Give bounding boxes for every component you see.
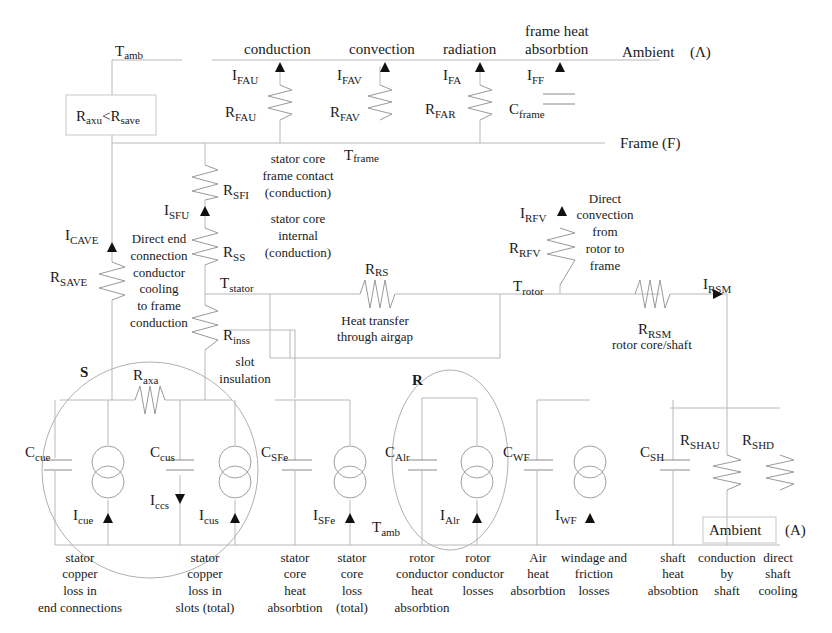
label-i-fau: IFAU (232, 67, 258, 86)
box-raxu-rsave: Raxu<Rsave (76, 108, 140, 126)
caption-air-heat: Air heat absorbtion (511, 550, 566, 598)
svg-text:copper: copper (187, 566, 223, 581)
resistor-rsfi (192, 165, 218, 200)
current-source-icue (92, 446, 124, 498)
thermal-circuit-diagram: conduction convection radiation frame he… (0, 0, 832, 633)
label-i-rsm: IRSM (703, 276, 731, 295)
label-r-rfv: RRFV (509, 240, 540, 259)
caption-windage-friction: windage and friction losses (561, 550, 628, 598)
label-c-cue: Ccue (25, 444, 50, 463)
arrow-down-iccs-icon (175, 494, 185, 504)
label-r-far: RFAR (425, 101, 456, 120)
resistor-rfau (268, 85, 292, 120)
label-r-shau: RSHAU (680, 432, 720, 451)
ambient-bottom-tag: (A) (785, 522, 806, 539)
arrow-up-isfu-icon (200, 206, 210, 216)
arrow-up-irfv-icon (557, 206, 567, 216)
caption-rotor-conductor-heat: rotor conductor heat absorbtion (395, 550, 450, 615)
resistor-raxa (135, 386, 165, 414)
ambient-top-tag: (Λ) (690, 44, 711, 61)
stator-group-label: S (80, 364, 88, 380)
label-r-rs: RRS (365, 261, 388, 278)
svg-text:slots (total): slots (total) (176, 600, 235, 615)
label-c-sfe: CSFe (261, 444, 288, 463)
label-i-sfu: ISFU (164, 202, 189, 221)
annotation-rotor-frame: Direct convection from rotor to frame (576, 191, 634, 273)
svg-text:from: from (592, 224, 617, 239)
label-i-cave: ICAVE (65, 227, 99, 246)
arrow-up-icus-icon (230, 513, 240, 523)
svg-text:windage and: windage and (561, 550, 628, 565)
node-t-amb-bottom: Tamb (372, 519, 401, 538)
svg-text:conduction: conduction (698, 550, 756, 565)
svg-text:direct: direct (763, 550, 793, 565)
caption-shaft-heat: shaft heat absobtion (648, 550, 699, 598)
label-c-alr: CAlr (385, 444, 410, 463)
svg-text:rotor to: rotor to (586, 241, 625, 256)
annotation-airgap: Heat transfer through airgap (337, 313, 413, 344)
svg-text:shaft: shaft (765, 566, 791, 581)
resistor-rss (192, 228, 218, 265)
label-i-cue: Icue (73, 507, 93, 526)
svg-text:absobtion: absobtion (648, 583, 699, 598)
svg-text:cooling: cooling (140, 281, 179, 296)
arrow-up-icue-icon (103, 513, 113, 523)
resistor-rshd (766, 455, 794, 490)
label-r-fav: RFAV (330, 104, 360, 123)
resistor-rshau (713, 455, 741, 490)
resistor-rfar (468, 85, 492, 120)
svg-text:Air: Air (529, 550, 547, 565)
arrow-up-ifa-icon (475, 62, 485, 72)
arrow-up-icave-icon (107, 242, 117, 252)
svg-text:heat: heat (662, 566, 684, 581)
svg-text:(total): (total) (336, 600, 368, 615)
svg-text:absorbtion: absorbtion (395, 600, 450, 615)
svg-text:loss in: loss in (63, 583, 97, 598)
svg-text:(conduction): (conduction) (265, 245, 331, 260)
caption-conduction-shaft: conduction by shaft (698, 550, 756, 598)
resistor-rsave (99, 262, 125, 300)
caption-direct-shaft-cooling: direct shaft cooling (759, 550, 798, 598)
svg-text:stator core: stator core (271, 211, 326, 226)
header-frame-heat-2: absorbtion (525, 41, 589, 57)
svg-text:by: by (721, 566, 735, 581)
caption-stator-copper-slots: stator copper loss in slots (total) (176, 550, 235, 615)
svg-text:rotor: rotor (465, 550, 491, 565)
svg-text:shaft: shaft (660, 550, 686, 565)
label-i-alr: IAlr (440, 507, 460, 526)
frame-label: Frame (F) (620, 135, 680, 152)
svg-text:to frame: to frame (137, 298, 181, 313)
annotation-rotor-shaft: rotor core/shaft (612, 337, 692, 352)
label-r-shd: RSHD (742, 432, 774, 451)
header-radiation: radiation (443, 41, 497, 57)
caption-rotor-conductor-losses: rotor conductor losses (452, 550, 505, 598)
svg-text:through airgap: through airgap (337, 329, 413, 344)
svg-text:cooling: cooling (759, 583, 798, 598)
arrow-up-ifav-icon (380, 62, 390, 72)
resistor-rrs (360, 280, 395, 308)
label-r-sfi: RSFI (223, 182, 249, 201)
svg-text:insulation: insulation (219, 371, 271, 386)
rotor-group-label: R (412, 372, 423, 388)
node-t-stator: Tstator (220, 275, 254, 294)
label-c-frame: Cframe (509, 101, 545, 120)
svg-text:Direct end: Direct end (132, 231, 187, 246)
caption-stator-core-loss: stator core loss (total) (336, 550, 368, 615)
header-conduction: conduction (244, 41, 311, 57)
caption-stator-core-heat: stator core heat absorbtion (268, 550, 323, 615)
arrow-up-ifau-icon (275, 62, 285, 72)
arrow-up-isfe-icon (345, 513, 355, 523)
label-i-fav: IFAV (337, 67, 362, 86)
label-i-cus: Icus (199, 507, 219, 526)
label-i-ccs: Iccs (150, 492, 169, 511)
label-c-wf: CWF (503, 444, 530, 463)
annotation-stator-core-frame: stator core frame contact (conduction) (262, 151, 333, 200)
caption-stator-copper-end: stator copper loss in end connections (38, 550, 122, 615)
svg-text:loss: loss (342, 583, 362, 598)
svg-text:frame contact: frame contact (262, 168, 333, 183)
svg-text:end connections: end connections (38, 600, 122, 615)
svg-text:absorbtion: absorbtion (268, 600, 323, 615)
svg-text:absorbtion: absorbtion (511, 583, 566, 598)
svg-text:shaft: shaft (714, 583, 740, 598)
label-r-save: RSAVE (50, 269, 88, 288)
